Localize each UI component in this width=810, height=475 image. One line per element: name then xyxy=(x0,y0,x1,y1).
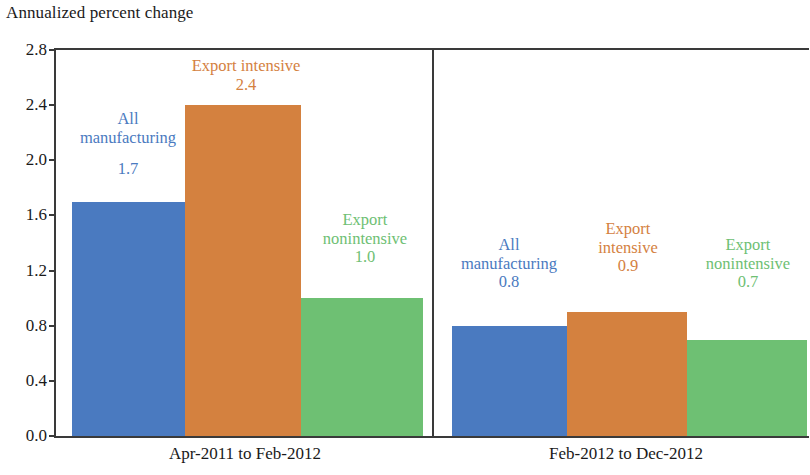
annotation-line1: Export intensive xyxy=(192,56,301,75)
bar-g1-export-nonintensive xyxy=(301,298,423,436)
annotation-line1: All xyxy=(117,109,138,128)
xcat-label-group2: Feb-2012 to Dec-2012 xyxy=(549,444,703,464)
ytick-mark-2 xyxy=(49,325,56,327)
ytick-label-7: 2.8 xyxy=(26,40,47,60)
annotation-line1: Export xyxy=(726,235,771,254)
bar-g1-all-manufacturing xyxy=(72,202,185,436)
annotation-value: 0.9 xyxy=(598,257,658,276)
ytick-label-3: 1.2 xyxy=(26,261,47,281)
ytick-label-6: 2.4 xyxy=(26,95,47,115)
bar-g2-all-manufacturing xyxy=(452,326,567,436)
annotation-line2: nonintensive xyxy=(323,229,407,248)
ytick-mark-3 xyxy=(49,270,56,272)
ytick-label-2: 0.8 xyxy=(26,316,47,336)
annotation-value: 1.0 xyxy=(323,248,407,267)
bar-g2-export-nonintensive xyxy=(687,340,807,437)
ytick-mark-6 xyxy=(49,104,56,106)
annotation-value: 2.4 xyxy=(192,76,301,95)
annotation-g1-export-nonintensive: Export nonintensive 1.0 xyxy=(323,211,407,267)
annotation-line1: Export xyxy=(606,219,651,238)
annotation-line2: manufacturing xyxy=(461,254,557,273)
annotation-line1: Export xyxy=(343,210,388,229)
group-divider xyxy=(432,50,434,438)
annotation-value: 0.8 xyxy=(461,273,557,292)
ytick-label-4: 1.6 xyxy=(26,205,47,225)
annotation-g2-export-nonintensive: Export nonintensive 0.7 xyxy=(706,236,790,292)
annotation-line1: All xyxy=(498,235,519,254)
xcat-label-group1: Apr-2011 to Feb-2012 xyxy=(169,444,321,464)
ytick-mark-7 xyxy=(49,49,56,51)
ytick-mark-4 xyxy=(49,214,56,216)
ytick-label-0: 0.0 xyxy=(26,426,47,446)
annotation-line2: nonintensive xyxy=(706,254,790,273)
annotation-g1-all-manufacturing: All manufacturing 1.7 xyxy=(80,110,176,179)
annotation-value: 1.7 xyxy=(80,160,176,179)
chart-title: Annualized percent change xyxy=(6,3,194,23)
ytick-mark-1 xyxy=(49,380,56,382)
annotation-value: 0.7 xyxy=(706,273,790,292)
plot-area: 0.0 0.4 0.8 1.2 1.6 2.0 2.4 2.8 All manu… xyxy=(54,48,809,438)
annotation-g2-all-manufacturing: All manufacturing 0.8 xyxy=(461,236,557,292)
ytick-label-1: 0.4 xyxy=(26,371,47,391)
ytick-mark-5 xyxy=(49,159,56,161)
chart-figure: Annualized percent change 0.0 0.4 0.8 1.… xyxy=(0,0,810,475)
annotation-line2: intensive xyxy=(598,238,658,257)
annotation-g1-export-intensive: Export intensive 2.4 xyxy=(192,57,301,94)
ytick-mark-0 xyxy=(49,435,56,437)
annotation-line2: manufacturing xyxy=(80,128,176,147)
bar-g1-export-intensive xyxy=(185,105,301,436)
bar-g2-export-intensive xyxy=(567,312,687,436)
ytick-label-5: 2.0 xyxy=(26,150,47,170)
annotation-g2-export-intensive: Export intensive 0.9 xyxy=(598,220,658,276)
